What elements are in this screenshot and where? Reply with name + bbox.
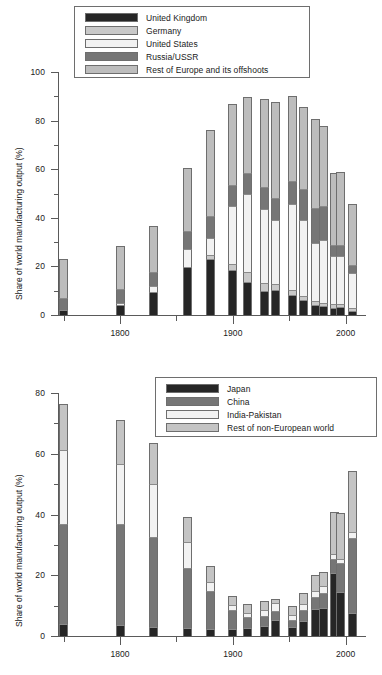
bar-stack (288, 72, 297, 315)
y-axis-tick-minor (54, 242, 58, 243)
chart-panel-top: Share of world manufacturing output (%) … (0, 0, 382, 345)
legend-label: China (227, 397, 249, 407)
bar-segment (260, 99, 269, 188)
x-axis-line (58, 315, 366, 316)
y-axis-tick-minor (54, 545, 58, 546)
bar-segment (116, 246, 125, 289)
bar-segment (299, 296, 308, 300)
y-axis-tick-major (51, 636, 58, 637)
bar-segment (206, 582, 215, 591)
bar-segment (336, 559, 345, 563)
y-axis-tick-label: 80 (35, 116, 45, 126)
bar-segment (336, 592, 345, 636)
bar-segment (183, 628, 192, 636)
bar-segment (59, 298, 68, 310)
bar-segment (183, 542, 192, 568)
y-axis-tick-label: 40 (35, 213, 45, 223)
bar-segment (228, 629, 237, 636)
bar-segment (116, 289, 125, 303)
bar-segment (206, 130, 215, 217)
bar-segment (228, 104, 237, 185)
legend-swatch (166, 410, 219, 419)
bar-segment (243, 97, 252, 173)
bar-segment (149, 443, 158, 483)
y-axis-label-bottom: Share of world manufacturing output (%) (14, 474, 24, 627)
bar-segment (260, 626, 269, 636)
legend-swatch (85, 65, 138, 74)
x-axis-tick-minor (289, 637, 290, 642)
legend-swatch (166, 397, 219, 406)
legend-swatch (85, 26, 138, 35)
bar-stack (59, 393, 68, 636)
bar-segment (243, 628, 252, 636)
x-axis-tick-major (233, 637, 234, 645)
bar-segment (299, 189, 308, 220)
bar-segment (348, 204, 357, 265)
bar-segment (243, 613, 252, 617)
bar-segment (59, 259, 68, 298)
bar-segment (228, 596, 237, 605)
legend-label: United States (146, 39, 198, 49)
bar-segment (116, 305, 125, 315)
bar-segment (183, 517, 192, 542)
bar-segment (336, 563, 345, 592)
x-axis-tick-label: 2000 (336, 649, 355, 659)
bar-segment (348, 538, 357, 613)
bar-segment (271, 198, 280, 220)
bar-segment (149, 292, 158, 315)
x-axis-tick-major (346, 637, 347, 645)
y-axis-tick-label: 20 (35, 261, 45, 271)
bar-stack (183, 72, 192, 315)
legend-item: Russia/USSR (75, 50, 309, 63)
x-axis-tick-label: 2000 (336, 328, 355, 338)
bar-segment (149, 484, 158, 537)
y-axis-tick-minor (54, 291, 58, 292)
bar-segment (319, 586, 328, 593)
y-axis-tick-label: 40 (35, 510, 45, 520)
y-axis-tick-label: 60 (35, 164, 45, 174)
bar-stack (206, 72, 215, 315)
legend-swatch (166, 384, 219, 393)
legend-swatch (85, 13, 138, 22)
bar-segment (319, 593, 328, 608)
legend-swatch (85, 39, 138, 48)
bar-segment (183, 568, 192, 628)
bar-segment (59, 450, 68, 524)
bar-segment (260, 610, 269, 616)
bar-stack (116, 393, 125, 636)
bar-segment (288, 290, 297, 294)
y-axis-tick-major (51, 266, 58, 267)
bar-segment (319, 240, 328, 303)
bar-segment (260, 209, 269, 282)
bar-segment (183, 267, 192, 315)
x-axis-tick-major (233, 316, 234, 324)
bar-segment (183, 168, 192, 230)
legend-item: India-Pakistan (156, 408, 376, 421)
y-axis-tick-label: 20 (35, 570, 45, 580)
bar-segment (348, 273, 357, 308)
legend-item: Rest of Europe and its offshoots (75, 63, 309, 76)
bar-segment (183, 249, 192, 266)
y-axis-tick-major (51, 315, 58, 316)
bar-segment (271, 284, 280, 290)
y-axis-label-top: Share of world manufacturing output (%) (14, 147, 24, 300)
bar-segment (149, 627, 158, 636)
bar-segment (206, 216, 215, 237)
bar-segment (243, 617, 252, 628)
y-axis-tick-minor (54, 194, 58, 195)
y-axis-tick-minor (54, 96, 58, 97)
bar-segment (260, 283, 269, 292)
legend-label: United Kingdom (146, 13, 207, 23)
bar-stack (260, 72, 269, 315)
bar-segment (348, 311, 357, 315)
bar-stack (319, 72, 328, 315)
bar-segment (116, 420, 125, 464)
bar-segment (260, 291, 269, 315)
bar-segment (288, 181, 297, 204)
y-axis-tick-major (51, 393, 58, 394)
legend-item: United States (75, 37, 309, 50)
x-axis-tick-major (346, 316, 347, 324)
bar-segment (348, 613, 357, 636)
bar-segment (288, 204, 297, 290)
bar-segment (271, 290, 280, 315)
